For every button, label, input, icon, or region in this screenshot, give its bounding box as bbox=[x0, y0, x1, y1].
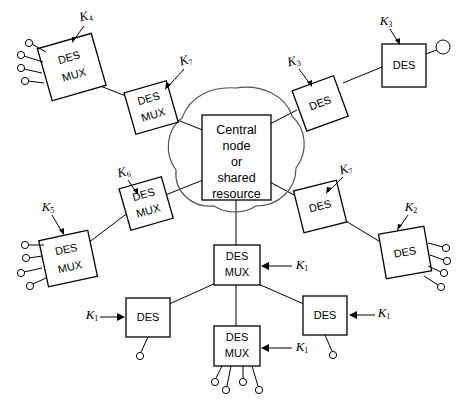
terminal-circle-ll-1 bbox=[21, 241, 28, 248]
terminal-circle-ul-1 bbox=[25, 39, 32, 46]
terminal-circle-rl-2 bbox=[443, 257, 450, 264]
node-desmux-left-lower[interactable]: DES MUX bbox=[39, 230, 98, 286]
desmux-bottom-line1: DES bbox=[226, 331, 249, 343]
key-k1-center-label: K1 bbox=[295, 257, 309, 273]
key-k2-label: K2 bbox=[404, 199, 418, 215]
terminal-circle-tr-1 bbox=[436, 40, 450, 54]
central-line-1: Central bbox=[216, 123, 256, 137]
node-desmux-upper-left[interactable]: DES MUX bbox=[37, 33, 106, 100]
terminal-wire-tr-1 bbox=[426, 50, 437, 54]
key-k1-right-arrowhead bbox=[349, 311, 357, 319]
network-diagram-svg: Central node or shared resource DES MUX … bbox=[0, 0, 471, 415]
key-k1-left-arrowhead bbox=[117, 313, 125, 321]
key-k3-top-label: K3 bbox=[379, 13, 393, 29]
terminal-circle-bm-4 bbox=[255, 386, 262, 393]
node-des-bottom-right[interactable]: DES bbox=[303, 296, 347, 335]
terminal-circle-bm-2 bbox=[222, 386, 229, 393]
key-k5-group: K5 bbox=[41, 199, 64, 235]
terminal-wire-ll-4 bbox=[33, 278, 46, 284]
key-k1-left-group: K1 bbox=[85, 307, 125, 323]
key-k3-upper-label: K3 bbox=[285, 52, 302, 71]
terminal-circle-bm-3 bbox=[239, 378, 246, 385]
node-des-bottom-left[interactable]: DES bbox=[126, 298, 170, 337]
node-desmux-bottom[interactable]: DES MUX bbox=[214, 326, 260, 366]
key-k1-right-label: K1 bbox=[377, 305, 391, 321]
desmux-upper-left-box[interactable] bbox=[37, 33, 106, 100]
terminal-wire-ul-4 bbox=[28, 81, 44, 83]
terminal-circle-rl-3 bbox=[440, 269, 447, 276]
terminal-circle-rl-4 bbox=[437, 283, 444, 290]
node-des-right-lower[interactable]: DES bbox=[379, 226, 432, 278]
desmux-upper-left-terminals bbox=[17, 39, 46, 84]
node-des-upper-right[interactable]: DES bbox=[292, 76, 348, 131]
central-line-5: resource bbox=[212, 187, 261, 201]
central-line-4: shared bbox=[217, 171, 255, 185]
node-desmux-left-mid[interactable]: DES MUX bbox=[119, 177, 173, 230]
terminal-circle-ul-2 bbox=[17, 51, 24, 58]
des-bottom-left-label: DES bbox=[137, 311, 160, 323]
terminal-wire-rl-4 bbox=[424, 276, 438, 285]
key-k7-upper-label: K7 bbox=[176, 51, 194, 70]
terminal-circle-ll-3 bbox=[17, 269, 24, 276]
key-k4-label: K4 bbox=[77, 7, 94, 26]
key-k1-right-group: K1 bbox=[349, 305, 390, 321]
wire-des-ur-to-des-tr bbox=[343, 67, 382, 83]
key-k1-bottom-arrowhead bbox=[261, 344, 269, 352]
desmux-bottom-line2: MUX bbox=[225, 347, 250, 359]
node-des-top-right[interactable]: DES bbox=[382, 44, 426, 87]
diagram-canvas: Central node or shared resource DES MUX … bbox=[0, 0, 471, 415]
terminal-circle-ul-4 bbox=[21, 77, 28, 84]
key-k1-center-arrowhead bbox=[261, 262, 269, 270]
terminal-wire-ul-3 bbox=[24, 69, 42, 73]
des-bottom-right-label: DES bbox=[314, 309, 337, 321]
node-desmux-center-bottom[interactable]: DES MUX bbox=[214, 245, 260, 285]
terminal-circle-ll-4 bbox=[26, 282, 33, 289]
desmux-center-bottom-line1: DES bbox=[226, 250, 249, 262]
desmux-upper-mid-box[interactable] bbox=[124, 81, 178, 134]
terminal-wire-br-1 bbox=[325, 335, 332, 351]
key-k1-left-label: K1 bbox=[85, 307, 99, 323]
desmux-left-mid-box[interactable] bbox=[119, 177, 173, 230]
terminal-circle-ul-3 bbox=[17, 64, 24, 71]
terminal-circle-bm-1 bbox=[211, 378, 218, 385]
wire-right-des-to-cloud bbox=[268, 181, 296, 196]
desmux-bottom-terminals bbox=[211, 366, 262, 394]
key-k3-upper-group: K3 bbox=[285, 52, 312, 87]
key-k7-right-label: K7 bbox=[336, 160, 354, 179]
terminal-circle-br-1 bbox=[329, 351, 336, 358]
desmux-left-lower-box[interactable] bbox=[39, 230, 98, 286]
wire-bmux-to-des-br bbox=[256, 283, 306, 305]
des-top-right-terminal bbox=[426, 40, 450, 54]
key-k1-bottom-group: K1 bbox=[261, 339, 308, 355]
central-line-2: node bbox=[223, 139, 251, 153]
key-k5-label: K5 bbox=[41, 199, 55, 215]
key-k1-center-group: K1 bbox=[261, 257, 308, 273]
terminal-wire-bm-2 bbox=[227, 366, 231, 386]
terminal-circle-rl-1 bbox=[442, 244, 449, 251]
terminal-wire-ll-2 bbox=[29, 256, 42, 258]
key-k7-right-group: K7 bbox=[326, 160, 354, 194]
terminal-wire-rl-1 bbox=[428, 243, 443, 247]
wire-bmux-to-des-bl bbox=[167, 283, 216, 305]
desmux-center-bottom-line2: MUX bbox=[225, 266, 250, 278]
des-bottom-right-terminal bbox=[325, 335, 337, 359]
wire-left-lower-mux-to-left-mux bbox=[88, 212, 129, 243]
des-bottom-left-terminal bbox=[136, 337, 148, 360]
terminal-wire-bl-1 bbox=[141, 337, 148, 352]
key-k1-bottom-label: K1 bbox=[295, 339, 309, 355]
node-des-right-mid[interactable]: DES bbox=[294, 180, 347, 232]
key-k6-label: K6 bbox=[115, 163, 132, 182]
terminal-wire-bm-4 bbox=[252, 366, 258, 386]
key-k2-group: K2 bbox=[397, 199, 417, 231]
node-desmux-upper-mid[interactable]: DES MUX bbox=[124, 81, 178, 134]
terminal-wire-ll-3 bbox=[24, 268, 42, 272]
terminal-circle-ll-2 bbox=[22, 254, 29, 261]
terminal-wire-bm-1 bbox=[216, 366, 222, 378]
des-top-right-label: DES bbox=[393, 59, 416, 71]
terminal-circle-bl-1 bbox=[136, 352, 143, 359]
key-k3-top-group: K3 bbox=[379, 13, 400, 45]
central-node-group: Central node or shared resource bbox=[202, 115, 271, 201]
key-k7-upper-group: K7 bbox=[165, 51, 194, 90]
central-line-3: or bbox=[231, 155, 242, 169]
terminal-wire-rl-2 bbox=[430, 255, 444, 260]
